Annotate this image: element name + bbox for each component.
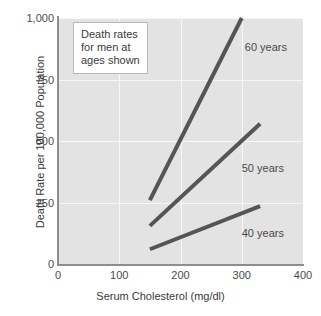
x-axis-title: Serum Cholesterol (mg/dl) bbox=[0, 290, 321, 302]
series-label-60-years: 60 years bbox=[245, 42, 287, 53]
chart-root: 02505007501,000 0100200300400 60 years50… bbox=[0, 0, 321, 316]
series-label-40-years: 40 years bbox=[242, 228, 284, 239]
note-line-3: ages shown bbox=[81, 54, 140, 67]
data-line-60-years bbox=[150, 18, 242, 200]
note-line-2: for men at bbox=[81, 41, 140, 54]
note-line-1: Death rates bbox=[81, 28, 140, 41]
series-label-50-years: 50 years bbox=[242, 163, 284, 174]
annotation-note-box: Death rates for men at ages shown bbox=[73, 22, 148, 74]
y-axis-title: Death Rate per 100,000 Population bbox=[34, 22, 46, 262]
